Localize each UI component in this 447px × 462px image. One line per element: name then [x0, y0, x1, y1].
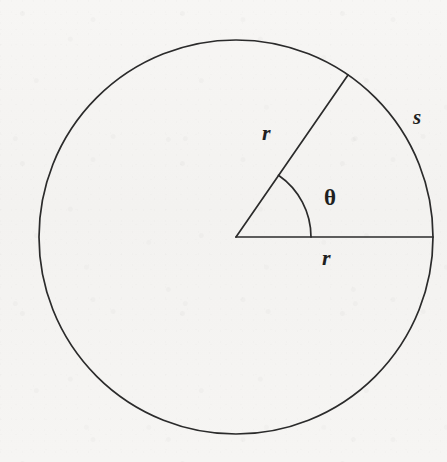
angled-radius-line: [236, 75, 348, 237]
circle-sector-drawing: [0, 0, 447, 462]
figure-canvas: r θ s r: [0, 0, 447, 462]
label-radius-upper: r: [262, 122, 271, 144]
central-angle-arc: [278, 175, 311, 237]
label-arc-length-s: s: [413, 107, 421, 128]
label-central-angle-theta: θ: [324, 186, 336, 209]
label-radius-lower: r: [322, 247, 331, 269]
